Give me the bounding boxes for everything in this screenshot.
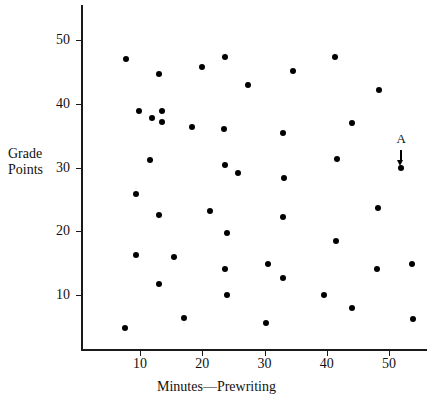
x-tick-mark: [202, 351, 203, 356]
data-point: [189, 124, 195, 130]
annotation-a: A: [392, 132, 410, 172]
data-point: [222, 54, 228, 60]
x-tick-label: 10: [125, 356, 155, 372]
data-point: [159, 108, 165, 114]
y-tick-mark: [76, 295, 81, 296]
data-point: [235, 170, 241, 176]
data-point: [224, 292, 230, 298]
data-point: [290, 68, 296, 74]
data-point: [280, 130, 286, 136]
x-axis-line: [81, 349, 427, 351]
data-point: [147, 157, 153, 163]
y-tick-mark: [76, 168, 81, 169]
y-tick-mark: [76, 40, 81, 41]
annotation-a-label: A: [392, 132, 410, 145]
x-tick-mark: [327, 351, 328, 356]
x-tick-mark: [389, 351, 390, 356]
data-point: [133, 252, 139, 258]
data-point: [280, 214, 286, 220]
y-tick-label: 20: [42, 223, 70, 239]
data-point: [265, 261, 271, 267]
x-tick-label: 50: [374, 356, 404, 372]
data-point: [222, 162, 228, 168]
data-point: [156, 281, 162, 287]
x-tick-label: 20: [187, 356, 217, 372]
data-point: [334, 156, 340, 162]
y-tick-mark: [76, 104, 81, 105]
y-tick-label: 50: [42, 32, 70, 48]
data-point: [123, 56, 129, 62]
y-tick-mark: [76, 231, 81, 232]
data-point: [333, 238, 339, 244]
data-point: [171, 254, 177, 260]
data-point: [349, 305, 355, 311]
data-point: [136, 108, 142, 114]
x-tick-mark: [140, 351, 141, 356]
y-tick-label: 30: [42, 160, 70, 176]
data-point: [374, 266, 380, 272]
data-point: [181, 315, 187, 321]
data-point: [207, 208, 213, 214]
x-tick-label: 40: [312, 356, 342, 372]
data-point: [222, 266, 228, 272]
x-axis-title: Minutes—Prewriting: [0, 379, 433, 395]
data-point: [199, 64, 205, 70]
data-point: [321, 292, 327, 298]
data-point: [349, 120, 355, 126]
data-point: [409, 261, 415, 267]
data-point: [245, 82, 251, 88]
data-point: [224, 230, 230, 236]
x-tick-mark: [265, 351, 266, 356]
x-tick-label: 30: [250, 356, 280, 372]
data-point: [159, 119, 165, 125]
data-point: [156, 71, 162, 77]
data-point: [133, 191, 139, 197]
scatter-plot-figure: Grade Points Minutes—Prewriting 10203040…: [0, 0, 433, 407]
data-point: [376, 87, 382, 93]
data-point: [280, 275, 286, 281]
data-point: [263, 320, 269, 326]
data-point: [375, 205, 381, 211]
data-point: [156, 212, 162, 218]
data-point: [410, 316, 416, 322]
data-point: [221, 126, 227, 132]
data-point: [122, 325, 128, 331]
data-point: [149, 115, 155, 121]
y-tick-label: 10: [42, 287, 70, 303]
data-point: [281, 175, 287, 181]
y-axis-line: [81, 5, 83, 351]
y-tick-label: 40: [42, 96, 70, 112]
data-point: [332, 54, 338, 60]
annotation-a-arrow-head: [397, 160, 403, 166]
